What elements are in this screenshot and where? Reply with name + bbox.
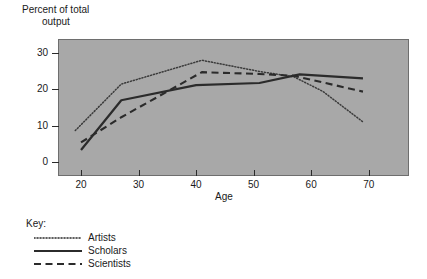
y-axis-title-line-2: output — [42, 16, 70, 28]
y-axis-title-line-1: Percent of total — [22, 4, 89, 16]
x-tick-label: 50 — [242, 179, 266, 190]
legend-item-artists: Artists — [26, 231, 206, 244]
legend-title: Key: — [26, 218, 206, 229]
series-line-artists — [75, 60, 363, 130]
data-series-layer — [58, 39, 409, 176]
legend-swatch-scholars-icon — [34, 245, 82, 256]
y-tick-label: 0 — [22, 156, 48, 167]
legend-label: Scholars — [88, 245, 127, 256]
legend-rows: ArtistsScholarsScientists — [26, 231, 206, 270]
x-tick-label: 60 — [299, 179, 323, 190]
x-tick-label: 40 — [184, 179, 208, 190]
legend-item-scholars: Scholars — [26, 244, 206, 257]
series-line-scholars — [81, 74, 363, 150]
chart-container: Percent of total output 0102030 20304050… — [0, 0, 427, 279]
legend-label: Scientists — [88, 258, 131, 269]
legend-item-scientists: Scientists — [26, 257, 206, 270]
x-tick-label: 70 — [357, 179, 381, 190]
series-line-scientists — [81, 72, 363, 142]
legend-swatch-scientists-icon — [34, 258, 82, 269]
legend-label: Artists — [88, 232, 116, 243]
x-tick-label: 30 — [127, 179, 151, 190]
legend: Key: ArtistsScholarsScientists — [26, 218, 206, 270]
x-tick-label: 20 — [69, 179, 93, 190]
y-tick-label: 30 — [22, 47, 48, 58]
x-axis-title: Age — [215, 191, 233, 203]
y-tick-label: 10 — [22, 120, 48, 131]
y-tick-label: 20 — [22, 83, 48, 94]
legend-swatch-artists-icon — [34, 232, 82, 243]
